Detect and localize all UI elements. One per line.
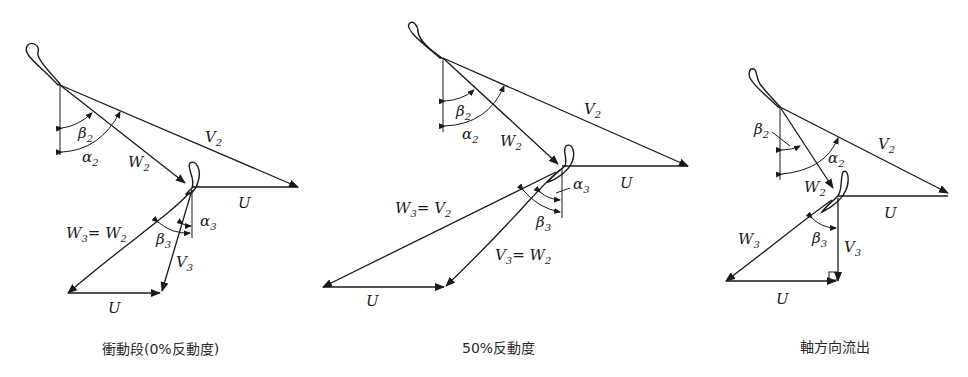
beta3-label: β3 — [811, 229, 827, 249]
w2-label: W2 — [128, 153, 150, 173]
w2-vector — [780, 107, 833, 188]
w3-label: W3= V2 — [395, 199, 451, 219]
nozzle-blade — [749, 69, 780, 107]
alpha3-leader — [556, 188, 570, 193]
beta3-label: β3 — [155, 230, 171, 250]
beta2-label: β2 — [455, 102, 471, 122]
alpha3-label: α3 — [200, 212, 217, 232]
w2-label: W2 — [804, 178, 826, 198]
velocity-triangle-diagram: β2 α2 V2 W2 U U β3 α3 V3 W3= W2 衝動段(0%反動… — [0, 0, 968, 377]
rotor-blade — [186, 162, 199, 194]
panel-reaction-50: β2 α2 V2 W2 U U β3 α3 W3= V2 V3= W2 50%反… — [323, 22, 688, 356]
beta3-label: β3 — [535, 213, 551, 233]
w3-vector — [323, 172, 556, 287]
u-top-label: U — [620, 174, 634, 192]
beta2-label: β2 — [753, 120, 769, 140]
nozzle-blade — [26, 44, 60, 85]
beta3-arc — [812, 218, 836, 228]
caption-impulse: 衝動段(0%反動度) — [102, 341, 219, 357]
alpha3-arc — [183, 224, 191, 226]
alpha3-label: α3 — [573, 175, 590, 195]
v3-label: V3 — [844, 238, 861, 258]
alpha2-arc — [62, 112, 120, 152]
alpha2-label: α2 — [462, 125, 479, 145]
caption-reaction-50: 50%反動度 — [462, 340, 535, 356]
v2-label: V2 — [205, 128, 222, 148]
u-bottom-label: U — [776, 290, 790, 308]
alpha2-label: α2 — [828, 149, 845, 169]
alpha2-label: α2 — [82, 148, 99, 168]
alpha3-arc — [540, 192, 560, 200]
beta2-leader — [772, 132, 790, 146]
v2-label: V2 — [584, 100, 601, 120]
u-bottom-label: U — [108, 299, 122, 317]
v2-vector — [60, 85, 298, 187]
panel-impulse: β2 α2 V2 W2 U U β3 α3 V3 W3= W2 衝動段(0%反動… — [26, 44, 298, 357]
v3-label: V3= W2 — [495, 246, 551, 266]
v2-label: V2 — [878, 135, 895, 155]
v3-label: V3 — [176, 253, 193, 273]
nozzle-blade — [408, 22, 442, 58]
beta2-arc — [62, 113, 92, 128]
u-top-label: U — [884, 204, 898, 222]
w3-label: W3 — [738, 230, 760, 250]
u-top-label: U — [238, 194, 252, 212]
beta2-label: β2 — [77, 124, 93, 144]
panel-axial-exit: β2 α2 V2 W2 U U β3 V3 W3 軸方向流出 — [726, 69, 948, 355]
beta2-arc — [445, 90, 474, 101]
caption-axial-exit: 軸方向流出 — [800, 339, 870, 355]
w3-label: W3= W2 — [66, 224, 127, 244]
beta2-arc — [782, 146, 800, 150]
right-angle-marker — [829, 272, 837, 280]
w2-label: W2 — [500, 132, 522, 152]
u-bottom-label: U — [366, 292, 380, 310]
